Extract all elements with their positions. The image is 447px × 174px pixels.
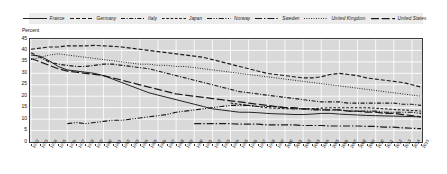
plot-area bbox=[29, 38, 423, 143]
legend-item-germany[interactable]: Germany bbox=[69, 13, 121, 24]
legend-item-france[interactable]: France bbox=[22, 13, 69, 24]
legend-item-united-kingdom[interactable]: United Kingdom bbox=[303, 13, 369, 24]
legend-line-swatch bbox=[161, 15, 187, 22]
legend-line-swatch bbox=[370, 15, 396, 22]
legend-item-sweden[interactable]: Sweden bbox=[254, 13, 303, 24]
legend-item-label: Italy bbox=[148, 16, 157, 21]
y-tick-label: 5 bbox=[8, 127, 27, 132]
legend-item-label: France bbox=[50, 16, 65, 21]
legend-item-label: United States bbox=[398, 16, 427, 21]
y-axis-labels: 051015202530354045 bbox=[8, 33, 27, 148]
chart-svg bbox=[30, 39, 422, 142]
y-tick-label: 20 bbox=[8, 93, 27, 98]
legend-line-swatch bbox=[254, 15, 280, 22]
x-axis-labels: 1972197319741975197619771978197919801981… bbox=[29, 144, 423, 174]
chart-container: FranceGermanyItalyJapanNorwaySwedenUnite… bbox=[0, 0, 447, 174]
chart-legend: FranceGermanyItalyJapanNorwaySwedenUnite… bbox=[29, 13, 423, 24]
legend-item-label: Norway bbox=[234, 16, 250, 21]
y-tick-label: 35 bbox=[8, 58, 27, 63]
y-tick-label: 15 bbox=[8, 104, 27, 109]
legend-line-swatch bbox=[206, 15, 232, 22]
legend-item-italy[interactable]: Italy bbox=[120, 13, 161, 24]
legend-item-norway[interactable]: Norway bbox=[206, 13, 254, 24]
y-tick-label: 30 bbox=[8, 70, 27, 75]
legend-item-label: Germany bbox=[97, 16, 117, 21]
legend-line-swatch bbox=[120, 15, 146, 22]
legend-item-label: Sweden bbox=[282, 16, 299, 21]
y-tick-label: 40 bbox=[8, 47, 27, 52]
legend-item-japan[interactable]: Japan bbox=[161, 13, 206, 24]
legend-line-swatch bbox=[69, 15, 95, 22]
y-tick-label: 10 bbox=[8, 116, 27, 121]
y-tick-label: 45 bbox=[8, 36, 27, 41]
legend-line-swatch bbox=[303, 15, 329, 22]
legend-item-united-states[interactable]: United States bbox=[370, 13, 431, 24]
legend-item-label: United Kingdom bbox=[331, 16, 365, 21]
x-tick-label: 2015 bbox=[422, 139, 430, 149]
legend-item-label: Japan bbox=[189, 16, 202, 21]
y-tick-label: 0 bbox=[8, 139, 27, 144]
y-tick-label: 25 bbox=[8, 81, 27, 86]
legend-line-swatch bbox=[22, 15, 48, 22]
